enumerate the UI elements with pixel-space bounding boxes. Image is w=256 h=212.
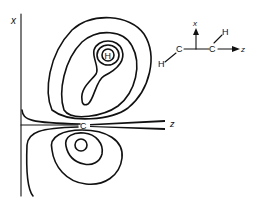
- inset-c-right: C: [209, 44, 216, 54]
- inset-h-left: H: [158, 59, 165, 69]
- inset-molecule: H C x C H z: [158, 19, 245, 69]
- z-axis: z: [21, 119, 175, 130]
- inset-z-label: z: [240, 45, 245, 54]
- z-axis-label: z: [169, 119, 175, 129]
- inset-h-right: H: [222, 27, 229, 37]
- inset-c-left: C: [176, 44, 183, 54]
- upper-lobe: H: [48, 18, 151, 119]
- x-axis-label: x: [10, 15, 17, 26]
- x-axis: x: [10, 14, 21, 196]
- lower-lobe: [51, 130, 122, 184]
- inset-x-label: x: [192, 19, 198, 28]
- nodal-region-curves: [22, 110, 80, 196]
- hydrogen-label: H: [105, 51, 112, 61]
- orbital-contour-diagram: x z C H: [0, 0, 256, 212]
